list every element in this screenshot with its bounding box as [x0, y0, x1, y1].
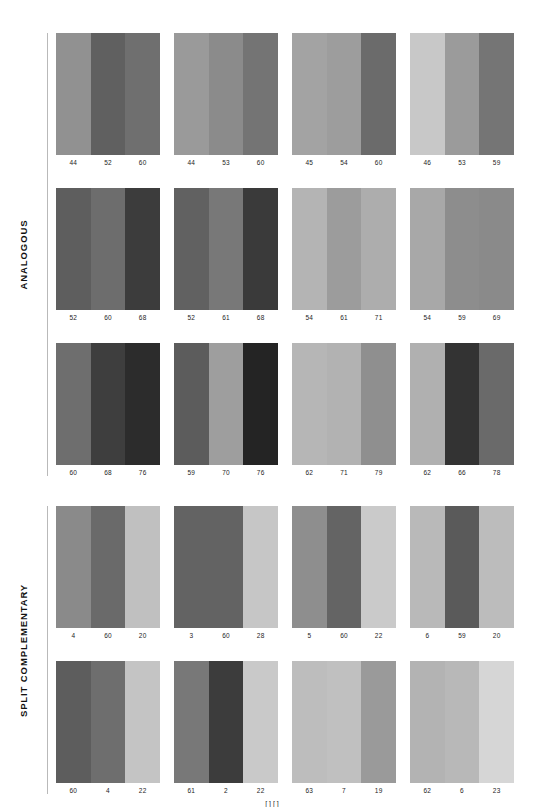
swatch-label-group: 3 60 28 [174, 628, 278, 639]
swatch[interactable] [410, 506, 445, 628]
swatch[interactable] [56, 33, 91, 155]
swatch-strip [292, 506, 396, 628]
swatch-value-label: 46 [410, 159, 445, 166]
swatch[interactable] [125, 188, 160, 310]
swatch-label-group: 4 60 20 [56, 628, 160, 639]
swatch[interactable] [292, 188, 327, 310]
swatch[interactable] [56, 188, 91, 310]
swatch[interactable] [91, 661, 126, 783]
palette-block[interactable]: 52 61 68 [174, 188, 278, 321]
swatch[interactable] [125, 506, 160, 628]
swatch[interactable] [445, 661, 480, 783]
palette-block[interactable]: 5 60 22 [292, 506, 396, 639]
swatch[interactable] [292, 661, 327, 783]
palette-block[interactable]: 54 61 71 [292, 188, 396, 321]
swatch-value-label: 4 [91, 787, 126, 794]
swatch[interactable] [174, 188, 209, 310]
swatch[interactable] [479, 188, 514, 310]
palette-row: 60 68 76 59 70 76 [48, 343, 544, 476]
swatch[interactable] [91, 33, 126, 155]
palette-block[interactable]: 3 60 28 [174, 506, 278, 639]
swatch-value-label: 19 [361, 787, 396, 794]
swatch[interactable] [445, 506, 480, 628]
swatch[interactable] [56, 343, 91, 465]
swatch[interactable] [410, 33, 445, 155]
swatch[interactable] [243, 661, 278, 783]
swatch[interactable] [445, 188, 480, 310]
swatch[interactable] [361, 506, 396, 628]
palette-block[interactable]: 45 54 60 [292, 33, 396, 166]
swatch[interactable] [125, 661, 160, 783]
palette-block[interactable]: 59 70 76 [174, 343, 278, 476]
swatch-strip [410, 661, 514, 783]
swatch[interactable] [56, 661, 91, 783]
swatch[interactable] [410, 188, 445, 310]
swatch-value-label: 60 [361, 159, 396, 166]
palette-block[interactable]: 62 6 23 [410, 661, 514, 794]
palette-block[interactable]: 61 2 22 [174, 661, 278, 794]
swatch[interactable] [56, 506, 91, 628]
swatch[interactable] [479, 33, 514, 155]
section-title-analogous: ANALOGOUS [0, 33, 48, 476]
swatch-strip [410, 506, 514, 628]
swatch[interactable] [243, 188, 278, 310]
swatch[interactable] [479, 661, 514, 783]
palette-block[interactable]: 44 53 60 [174, 33, 278, 166]
swatch[interactable] [209, 343, 244, 465]
swatch[interactable] [174, 506, 209, 628]
swatch[interactable] [292, 506, 327, 628]
palette-block[interactable]: 54 59 69 [410, 188, 514, 321]
palette-block[interactable]: 44 52 60 [56, 33, 160, 166]
swatch[interactable] [410, 343, 445, 465]
swatch-value-label: 70 [209, 469, 244, 476]
palette-block[interactable]: 52 60 68 [56, 188, 160, 321]
swatch-strip [56, 188, 160, 310]
swatch[interactable] [174, 661, 209, 783]
palette-block[interactable]: 60 4 22 [56, 661, 160, 794]
swatch[interactable] [209, 33, 244, 155]
swatch[interactable] [292, 33, 327, 155]
swatch[interactable] [327, 33, 362, 155]
swatch-label-group: 45 54 60 [292, 155, 396, 166]
swatch[interactable] [327, 188, 362, 310]
swatch-value-label: 53 [209, 159, 244, 166]
swatch[interactable] [91, 506, 126, 628]
swatch[interactable] [327, 506, 362, 628]
swatch[interactable] [243, 506, 278, 628]
palette-block[interactable]: 62 71 79 [292, 343, 396, 476]
swatch[interactable] [243, 343, 278, 465]
swatch[interactable] [445, 343, 480, 465]
swatch[interactable] [209, 506, 244, 628]
palette-block[interactable]: 46 53 59 [410, 33, 514, 166]
palette-block[interactable]: 4 60 20 [56, 506, 160, 639]
swatch[interactable] [292, 343, 327, 465]
palette-block[interactable]: 63 7 19 [292, 661, 396, 794]
swatch[interactable] [479, 343, 514, 465]
palette-block[interactable]: 62 66 78 [410, 343, 514, 476]
section-body: 4 60 20 3 60 28 [48, 506, 544, 794]
swatch-value-label: 60 [91, 632, 126, 639]
swatch[interactable] [91, 188, 126, 310]
swatch-value-label: 54 [292, 314, 327, 321]
swatch[interactable] [410, 661, 445, 783]
swatch[interactable] [174, 33, 209, 155]
swatch[interactable] [479, 506, 514, 628]
swatch[interactable] [361, 33, 396, 155]
swatch[interactable] [327, 661, 362, 783]
swatch-strip [174, 33, 278, 155]
swatch[interactable] [327, 343, 362, 465]
palette-block[interactable]: 6 59 20 [410, 506, 514, 639]
swatch[interactable] [361, 188, 396, 310]
swatch[interactable] [445, 33, 480, 155]
swatch[interactable] [91, 343, 126, 465]
swatch[interactable] [125, 33, 160, 155]
swatch[interactable] [361, 661, 396, 783]
palette-block[interactable]: 60 68 76 [56, 343, 160, 476]
swatch-value-label: 68 [91, 469, 126, 476]
swatch[interactable] [174, 343, 209, 465]
swatch[interactable] [209, 188, 244, 310]
swatch[interactable] [209, 661, 244, 783]
swatch[interactable] [243, 33, 278, 155]
swatch[interactable] [361, 343, 396, 465]
swatch[interactable] [125, 343, 160, 465]
